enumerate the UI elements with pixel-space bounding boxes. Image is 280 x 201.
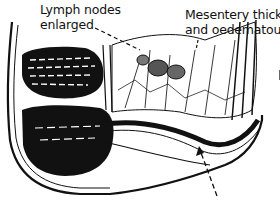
bowel-wall-column [103, 45, 112, 112]
cropped-edge-mark [279, 70, 280, 80]
label-mesentery-line1: Mesentery thick [185, 7, 280, 22]
arrow-mesentery [196, 40, 198, 50]
vessel-arcades [118, 80, 245, 100]
lymph-node [148, 60, 168, 76]
label-mesentery: Mesentery thick and oedematous [185, 7, 280, 37]
label-lymph-nodes-line1: Lymph nodes [40, 2, 121, 17]
label-lymph-nodes-line2: enlarged [40, 17, 121, 32]
anatomical-illustration: Lymph nodes enlarged Mesentery thick and… [0, 0, 280, 201]
bowel-lumen-upper [22, 47, 103, 99]
lymph-node [167, 65, 185, 79]
label-mesentery-line2: and oedematous [185, 22, 280, 37]
lymph-node [137, 55, 149, 65]
label-lymph-nodes: Lymph nodes enlarged [40, 2, 121, 32]
ileum-lower-wall [96, 140, 210, 165]
